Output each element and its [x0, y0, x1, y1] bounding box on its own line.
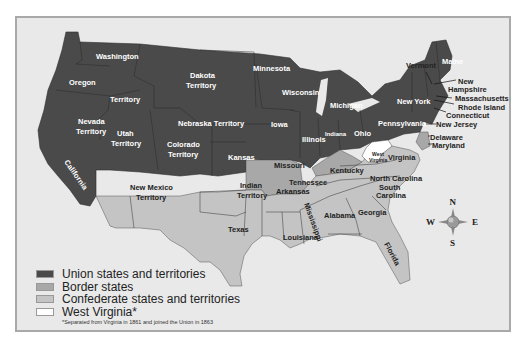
label-new-mexico-2: Territory	[136, 193, 167, 202]
label-maine: Maine	[442, 57, 463, 66]
legend-swatch-border	[36, 283, 54, 291]
label-vermont: Vermont	[406, 61, 437, 70]
legend-item-union: Union states and territories	[36, 268, 240, 281]
label-nevada-1: Nevada	[78, 117, 106, 126]
legend-item-border: Border states	[36, 281, 240, 294]
label-connecticut: Connecticut	[446, 111, 490, 120]
label-indiana: Indiana	[325, 131, 347, 137]
label-georgia: Georgia	[358, 208, 387, 217]
label-utah-2: Territory	[111, 139, 142, 148]
label-indian-1: Indian	[240, 181, 263, 190]
label-washington: Washington	[96, 52, 139, 61]
compass-e: E	[472, 217, 478, 227]
legend: Union states and territories Border stat…	[36, 268, 240, 325]
label-nevada-2: Territory	[76, 127, 107, 136]
label-maryland: Maryland	[432, 141, 465, 150]
label-territory: Territory	[110, 95, 141, 104]
label-nebraska: Nebraska Territory	[178, 119, 245, 128]
legend-item-confederate: Confederate states and territories	[36, 293, 240, 306]
label-texas: Texas	[228, 225, 249, 234]
label-new-york: New York	[397, 97, 431, 106]
label-kentucky: Kentucky	[330, 166, 365, 175]
label-arkansas: Arkansas	[276, 187, 310, 196]
label-iowa: Iowa	[271, 120, 288, 129]
label-missouri: Missouri	[274, 161, 305, 170]
label-kansas: Kansas	[228, 153, 255, 162]
label-dakota-1: Dakota	[190, 71, 216, 80]
label-tennessee: Tennessee	[289, 178, 327, 187]
legend-footnote: *Separated from Virginia in 1861 and joi…	[62, 319, 240, 325]
label-west-virginia-2: Virginia	[369, 157, 387, 163]
label-pennsylvania: Pennsylvania	[378, 119, 427, 128]
compass-center	[447, 216, 459, 228]
compass-s: S	[450, 238, 455, 248]
label-colorado-1: Colorado	[167, 140, 200, 149]
label-massachusetts: Massachusetts	[455, 94, 509, 103]
label-new-jersey: New Jersey	[436, 120, 478, 129]
label-ohio: Ohio	[354, 129, 371, 138]
label-michigan: Michigan	[330, 101, 363, 110]
compass-rose: N S E W	[426, 197, 478, 248]
label-indian-2: Territory	[237, 191, 268, 200]
label-alabama: Alabama	[324, 211, 356, 220]
legend-swatch-union	[36, 270, 54, 278]
label-utah-1: Utah	[117, 129, 134, 138]
label-colorado-2: Territory	[168, 150, 199, 159]
compass-n: N	[450, 197, 457, 207]
legend-swatch-west-virginia	[36, 308, 54, 316]
label-dakota-2: Territory	[186, 81, 217, 90]
compass-w: W	[426, 217, 435, 227]
label-north-carolina: North Carolina	[370, 174, 423, 183]
label-south-carolina-2: Carolina	[376, 191, 407, 200]
label-new-mexico-1: New Mexico	[130, 183, 173, 192]
label-illinois: Illinois	[302, 135, 326, 144]
legend-swatch-confederate	[36, 295, 54, 303]
label-virginia: Virginia	[388, 153, 416, 162]
label-new-hampshire-2: Hampshire	[448, 85, 487, 94]
legend-label-west-virginia: West Virginia*	[62, 305, 137, 319]
label-oregon: Oregon	[69, 78, 96, 87]
label-minnesota: Minnesota	[253, 64, 291, 73]
label-wisconsin: Wisconsin	[282, 88, 320, 97]
legend-item-west-virginia: West Virginia*	[36, 306, 240, 319]
